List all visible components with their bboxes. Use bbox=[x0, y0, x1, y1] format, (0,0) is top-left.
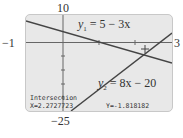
ymax-label: 10 bbox=[57, 2, 69, 14]
line-y2 bbox=[71, 33, 172, 111]
readout-x: X=2.2727723 bbox=[30, 102, 73, 110]
readout-title: Intersection bbox=[30, 94, 77, 102]
xmin-label: −1 bbox=[2, 37, 15, 49]
calculator-screen: y1 = 5 − 3x y2 = 8x − 20 Intersection X=… bbox=[25, 14, 173, 112]
readout-y: Y=-1.818182 bbox=[106, 102, 149, 110]
xmax-label: 3 bbox=[174, 37, 180, 49]
equation-y1: y1 = 5 − 3x bbox=[78, 17, 130, 33]
ymin-label: −25 bbox=[51, 115, 70, 127]
equation-y2: y2 = 8x − 20 bbox=[98, 76, 156, 92]
